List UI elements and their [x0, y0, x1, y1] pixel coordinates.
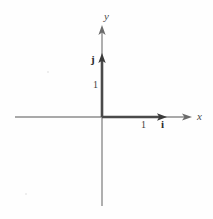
x-axis-tick-label-1: 1	[141, 120, 146, 130]
scan-artifact-speck	[47, 71, 49, 73]
y-axis-tick-label-1: 1	[93, 80, 98, 90]
y-axis-label: y	[104, 11, 109, 22]
vector-diagram-figure: y x j 1 1 i	[0, 0, 213, 219]
diagram-canvas	[0, 0, 213, 219]
vector-j-label: j	[91, 54, 95, 65]
vector-i-label: i	[161, 119, 164, 130]
scan-artifact-speck	[25, 193, 27, 195]
x-axis-label: x	[197, 111, 202, 122]
